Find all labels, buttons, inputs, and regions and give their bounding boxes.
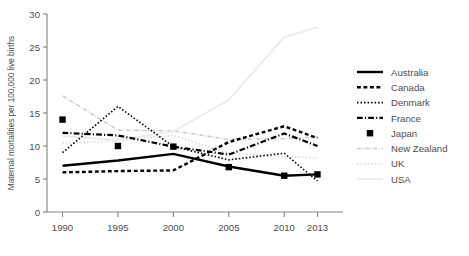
chart-figure: Maternal mortalities per 100,000 live bi… (0, 0, 469, 256)
legend-label: Japan (391, 128, 417, 139)
series-australia (63, 154, 318, 176)
series-line (63, 27, 318, 140)
legend-item-new-zealand: New Zealand (357, 143, 448, 154)
chart-series-group (59, 27, 320, 181)
data-point-marker (115, 143, 121, 149)
x-tick-label: 1995 (107, 222, 128, 233)
legend-item-uk: UK (357, 158, 405, 169)
legend-label: Canada (391, 82, 425, 93)
data-point-marker (226, 164, 232, 170)
legend-label: Denmark (391, 97, 430, 108)
series-line (63, 96, 318, 140)
y-tick-label: 0 (35, 207, 40, 218)
chart-legend: AustraliaCanadaDenmarkFranceJapanNew Zea… (357, 67, 448, 185)
legend-item-usa: USA (357, 174, 411, 185)
series-new-zealand (63, 96, 318, 140)
y-tick-label: 10 (29, 141, 40, 152)
series-usa (63, 27, 318, 140)
series-line (63, 106, 318, 181)
legend-label: New Zealand (391, 143, 448, 154)
series-line (63, 133, 318, 155)
data-point-marker (170, 143, 176, 149)
legend-item-japan: Japan (367, 128, 417, 139)
x-axis-tick-labels: 199019952000200520102013 (52, 222, 328, 233)
x-tick-label: 2010 (274, 222, 295, 233)
legend-label: USA (391, 174, 411, 185)
legend-label: Australia (391, 67, 429, 78)
data-point-marker (314, 171, 320, 177)
x-tick-label: 2000 (163, 222, 184, 233)
series-france (63, 133, 318, 155)
y-axis-title-text: Maternal mortalities per 100,000 live bi… (7, 36, 16, 190)
y-axis-title: Maternal mortalities per 100,000 live bi… (7, 36, 16, 190)
line-chart-canvas: Maternal mortalities per 100,000 live bi… (0, 0, 469, 256)
legend-item-australia: Australia (357, 67, 429, 78)
legend-swatch-marker (367, 130, 373, 136)
chart-axes (43, 14, 343, 217)
data-point-marker (59, 116, 65, 122)
y-tick-label: 25 (29, 42, 40, 53)
y-tick-label: 20 (29, 75, 40, 86)
data-point-marker (281, 173, 287, 179)
series-line (63, 154, 318, 176)
legend-item-france: France (357, 113, 421, 124)
legend-label: France (391, 113, 421, 124)
legend-label: UK (391, 158, 405, 169)
legend-item-denmark: Denmark (357, 97, 430, 108)
x-tick-label: 2013 (307, 222, 328, 233)
y-axis-tick-labels: 051015202530 (29, 9, 40, 218)
y-tick-label: 15 (29, 108, 40, 119)
x-tick-label: 2005 (218, 222, 239, 233)
series-denmark (63, 106, 318, 181)
y-tick-label: 30 (29, 9, 40, 20)
x-tick-label: 1990 (52, 222, 73, 233)
y-tick-label: 5 (35, 174, 40, 185)
legend-item-canada: Canada (357, 82, 425, 93)
